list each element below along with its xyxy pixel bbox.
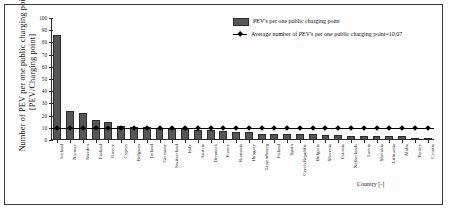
bar-slot <box>168 18 176 140</box>
y-axis-tick-label: 20 <box>42 113 47 118</box>
x-axis-category-label: Malta <box>404 144 409 156</box>
legend-item-bars: PEV's per one public charging point <box>233 18 438 26</box>
x-axis-tick <box>415 140 416 143</box>
y-axis-tick-label: 40 <box>42 89 47 94</box>
legend-label-average: Average number of PEV's per one public c… <box>251 31 402 38</box>
x-axis-title: Country [-] <box>357 181 384 187</box>
bar-slot <box>53 18 61 140</box>
x-axis-category-label: Poland <box>276 144 281 158</box>
x-axis-category-label: Italy <box>187 144 192 153</box>
bar <box>219 131 227 140</box>
bar-slot <box>219 18 227 140</box>
x-axis-category-label: Latvia <box>366 144 371 157</box>
y-axis-title-line-1: Number of PEV per one public charging po… <box>18 0 28 152</box>
x-axis-tick <box>338 140 339 143</box>
y-axis-tick-label: 30 <box>42 101 47 106</box>
x-axis-tick <box>402 140 403 143</box>
x-axis-tick <box>172 140 173 143</box>
bar <box>232 132 240 140</box>
x-axis-category-label: Lithuania <box>391 144 396 163</box>
x-axis-tick <box>236 140 237 143</box>
legend-label-bars: PEV's per one public charging point <box>253 18 340 25</box>
x-axis-tick <box>83 140 84 143</box>
bar-slot <box>92 18 100 140</box>
y-axis-tick-label: 60 <box>42 64 47 69</box>
x-axis-category-label: Slovenia <box>327 144 332 162</box>
x-axis-tick <box>249 140 250 143</box>
x-axis-tick <box>96 140 97 143</box>
chart-legend: PEV's per one public charging point Aver… <box>233 18 438 43</box>
bar-slot <box>104 18 112 140</box>
x-axis-category-label: Bulgaria <box>315 144 320 161</box>
x-axis-category-label: Sweden <box>85 144 90 160</box>
legend-item-average: Average number of PEV's per one public c… <box>233 31 438 38</box>
x-axis-tick <box>274 140 275 143</box>
x-axis-category-label: Czech Republic <box>302 144 307 176</box>
x-axis-tick <box>223 140 224 143</box>
bar-slot <box>194 18 202 140</box>
x-axis-tick <box>121 140 122 143</box>
bar <box>194 130 202 140</box>
bar-slot <box>117 18 125 140</box>
x-axis-category-label: Iceland <box>59 144 64 159</box>
x-axis-tick <box>108 140 109 143</box>
x-axis-tick <box>287 140 288 143</box>
x-axis-category-label: Greece <box>110 144 115 158</box>
bar-slot <box>79 18 87 140</box>
x-axis-tick <box>57 140 58 143</box>
x-axis-category-label: Croatia <box>430 144 435 159</box>
x-axis-tick <box>147 140 148 143</box>
legend-bar-swatch-icon <box>233 18 249 26</box>
x-axis-category-label: Austria <box>200 144 205 159</box>
y-axis-tick-label: 80 <box>42 40 47 45</box>
x-axis-tick <box>70 140 71 143</box>
x-axis-tick <box>351 140 352 143</box>
x-axis-tick <box>300 140 301 143</box>
x-axis-category-label: Germany <box>162 144 167 163</box>
x-axis-category-label: Luxembourg <box>264 144 269 170</box>
y-axis-tick-label: 0 <box>44 138 47 143</box>
y-axis-tick-label: 10 <box>42 125 47 130</box>
x-axis-tick <box>198 140 199 143</box>
bar <box>53 35 61 140</box>
x-axis-tick <box>211 140 212 143</box>
bar-slot <box>130 18 138 140</box>
x-axis-category-label: Finland <box>98 144 103 159</box>
x-axis-category-label: Norway <box>72 144 77 160</box>
y-axis-tick-label: 90 <box>42 28 47 33</box>
y-axis-tick-label: 50 <box>42 77 47 82</box>
y-axis-title-line-2: [PEV/Charging point] <box>28 34 38 110</box>
x-axis-tick <box>262 140 263 143</box>
x-axis-tick <box>313 140 314 143</box>
bar-slot <box>181 18 189 140</box>
x-axis-tick <box>364 140 365 143</box>
x-axis-category-label: Turkey <box>417 144 422 158</box>
legend-line-diamond-icon <box>233 31 247 37</box>
x-axis-category-label: Belgium <box>136 144 141 161</box>
x-axis-category-label: Romania <box>238 144 243 162</box>
x-axis-category-label: Estonia <box>340 144 345 159</box>
bar-slot <box>156 18 164 140</box>
x-axis-category-label: Hungary <box>251 144 256 162</box>
bar <box>245 132 253 140</box>
x-axis-tick <box>377 140 378 143</box>
x-axis-category-label: Switzerland <box>174 144 179 168</box>
bar-slot <box>66 18 74 140</box>
x-axis-category-label: France <box>225 144 230 158</box>
y-axis-title: Number of PEV per one public charging po… <box>13 0 43 147</box>
y-axis-tick-label: 100 <box>39 16 47 21</box>
x-axis-category-label: Ireland <box>149 144 154 158</box>
x-axis-category-label: Slovakia <box>379 144 384 162</box>
y-axis-tick <box>49 140 53 141</box>
x-axis-category-label: Spain <box>289 144 294 155</box>
x-axis-tick <box>389 140 390 143</box>
chart-figure: Number of PEV per one public charging po… <box>4 4 443 205</box>
x-axis-tick <box>428 140 429 143</box>
y-axis-tick-label: 70 <box>42 52 47 57</box>
x-axis-category-label: Cyprus <box>123 144 128 158</box>
x-axis-category-label: Netherlands <box>353 144 358 168</box>
x-axis-tick <box>134 140 135 143</box>
bar <box>104 122 112 140</box>
bar-slot <box>207 18 215 140</box>
bar-slot <box>143 18 151 140</box>
